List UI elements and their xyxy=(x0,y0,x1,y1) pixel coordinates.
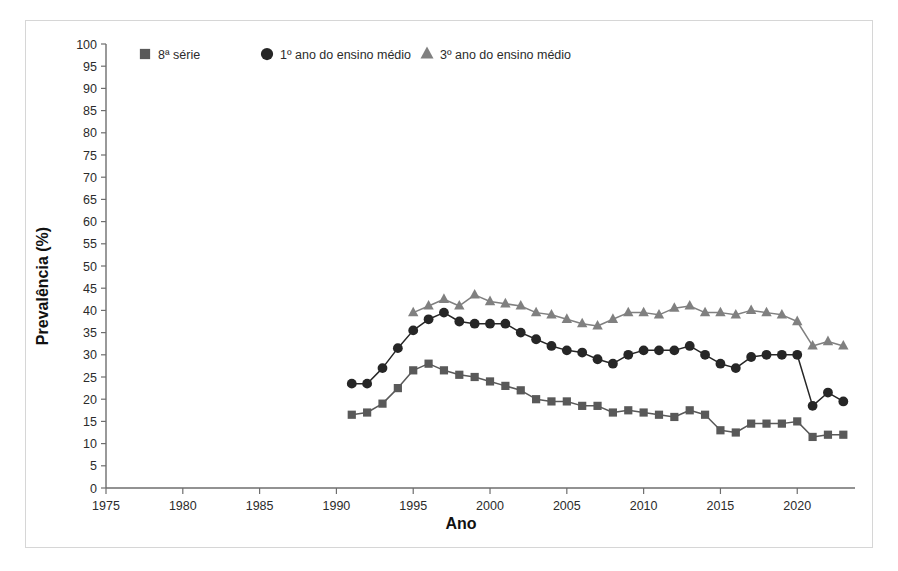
legend-item-2: 1º ano do ensino médio xyxy=(261,48,411,62)
data-point-square xyxy=(486,377,494,385)
x-tick-label: 1995 xyxy=(399,499,427,513)
data-point-circle xyxy=(716,359,726,369)
data-point-square xyxy=(378,400,386,408)
data-point-circle xyxy=(746,352,756,362)
data-point-square xyxy=(394,384,402,392)
data-point-square xyxy=(471,373,479,381)
x-tick-label: 2005 xyxy=(553,499,581,513)
data-point-square xyxy=(609,408,617,416)
data-point-circle xyxy=(485,319,495,329)
data-point-circle xyxy=(700,350,710,360)
data-point-circle xyxy=(454,317,464,327)
data-point-triangle xyxy=(421,47,434,59)
figure-border: 8ª série1º ano do ensino médio3º ano do … xyxy=(25,20,873,548)
data-point-circle xyxy=(823,388,833,398)
data-point-square xyxy=(808,433,816,441)
data-point-circle xyxy=(439,308,449,318)
data-point-square xyxy=(793,417,801,425)
data-point-circle xyxy=(393,343,403,353)
y-tick-label: 30 xyxy=(83,348,97,362)
legend-item-1: 8ª série xyxy=(140,48,200,62)
y-tick-label: 70 xyxy=(83,171,97,185)
data-point-triangle xyxy=(746,304,756,314)
x-tick-label: 1980 xyxy=(169,499,197,513)
data-point-circle xyxy=(623,350,633,360)
data-point-square xyxy=(762,420,770,428)
data-point-square xyxy=(778,420,786,428)
data-point-circle xyxy=(608,359,618,369)
y-tick-label: 25 xyxy=(83,371,97,385)
data-point-square xyxy=(716,426,724,434)
y-axis: 0510152025303540455055606570758085909510… xyxy=(76,38,106,496)
y-axis-title: Prevalência (%) xyxy=(34,227,51,345)
chart-legend: 8ª série1º ano do ensino médio3º ano do … xyxy=(140,47,571,62)
data-point-square xyxy=(839,431,847,439)
data-point-square xyxy=(547,397,555,405)
legend-item-3: 3º ano do ensino médio xyxy=(421,47,572,62)
y-tick-label: 75 xyxy=(83,149,97,163)
data-point-square xyxy=(409,366,417,374)
data-point-circle xyxy=(792,350,802,360)
data-point-triangle xyxy=(439,293,449,303)
data-point-circle xyxy=(408,325,418,335)
data-point-square xyxy=(747,420,755,428)
series-1 xyxy=(348,360,848,441)
y-tick-label: 80 xyxy=(83,126,97,140)
y-tick-label: 15 xyxy=(83,415,97,429)
data-point-square xyxy=(732,428,740,436)
data-point-circle xyxy=(562,345,572,355)
x-tick-label: 1985 xyxy=(246,499,274,513)
y-tick-label: 0 xyxy=(90,482,97,496)
y-tick-label: 50 xyxy=(83,260,97,274)
data-point-triangle xyxy=(623,307,633,317)
y-tick-label: 20 xyxy=(83,393,97,407)
data-point-square xyxy=(624,406,632,414)
x-tick-label: 2020 xyxy=(783,499,811,513)
data-point-square xyxy=(424,360,432,368)
data-point-square xyxy=(578,402,586,410)
data-point-circle xyxy=(516,328,526,338)
y-tick-label: 60 xyxy=(83,215,97,229)
y-tick-label: 90 xyxy=(83,82,97,96)
y-tick-label: 10 xyxy=(83,437,97,451)
data-point-triangle xyxy=(823,336,833,346)
legend-label: 3º ano do ensino médio xyxy=(440,48,571,62)
data-point-square xyxy=(501,382,509,390)
legend-label: 1º ano do ensino médio xyxy=(280,48,411,62)
y-tick-label: 55 xyxy=(83,237,97,251)
data-point-circle xyxy=(669,345,679,355)
data-point-circle xyxy=(762,350,772,360)
y-tick-label: 40 xyxy=(83,304,97,318)
y-tick-label: 95 xyxy=(83,60,97,74)
data-point-circle xyxy=(808,401,818,411)
data-point-square xyxy=(593,402,601,410)
data-point-circle xyxy=(470,319,480,329)
data-series-group xyxy=(347,289,849,441)
data-point-square xyxy=(701,411,709,419)
y-tick-label: 85 xyxy=(83,104,97,118)
data-point-circle xyxy=(593,354,603,364)
data-point-circle xyxy=(378,363,388,373)
data-point-circle xyxy=(531,334,541,344)
data-point-square xyxy=(563,397,571,405)
data-point-square xyxy=(517,386,525,394)
data-point-square xyxy=(532,395,540,403)
data-point-triangle xyxy=(638,307,648,317)
data-point-circle xyxy=(654,345,664,355)
y-tick-label: 65 xyxy=(83,193,97,207)
data-point-circle xyxy=(577,348,587,358)
data-point-circle xyxy=(362,379,372,389)
data-point-triangle xyxy=(685,300,695,310)
data-point-circle xyxy=(261,48,273,60)
data-point-circle xyxy=(731,363,741,373)
x-tick-label: 2000 xyxy=(476,499,504,513)
data-point-circle xyxy=(424,314,434,324)
data-point-square xyxy=(455,371,463,379)
data-point-square xyxy=(824,431,832,439)
data-point-square xyxy=(686,406,694,414)
data-point-square xyxy=(363,408,371,416)
chart-canvas: 8ª série1º ano do ensino médio3º ano do … xyxy=(26,21,872,547)
chart-figure: 8ª série1º ano do ensino médio3º ano do … xyxy=(0,0,898,571)
x-tick-label: 2010 xyxy=(630,499,658,513)
data-point-circle xyxy=(347,379,357,389)
